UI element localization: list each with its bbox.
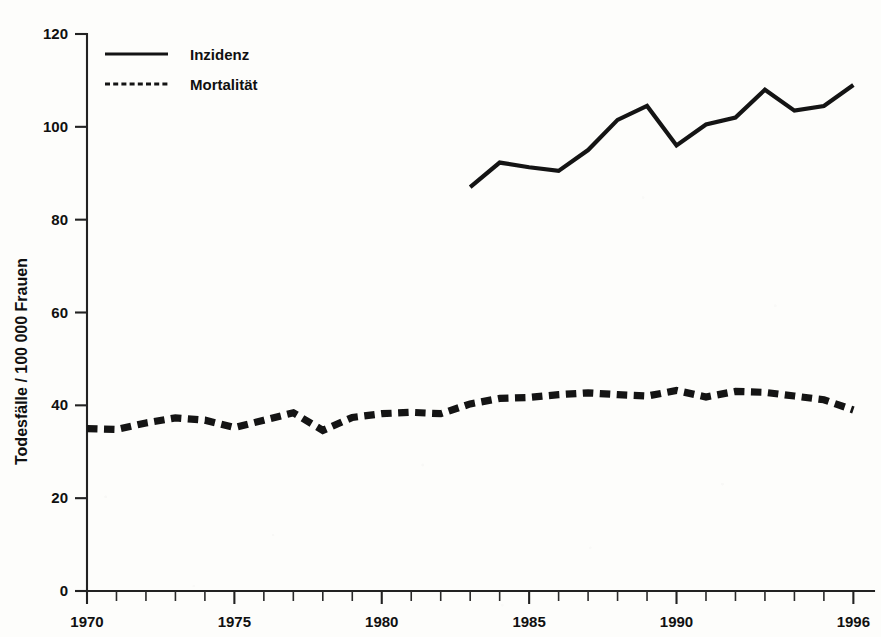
y-axis-title: Todesfälle / 100 000 Frauen [13,258,30,465]
series-line-mortalit-t [87,390,853,430]
line-chart: 020406080100120 197019751980198519901996… [0,0,881,637]
x-axis-minor-ticks [116,591,823,601]
y-tick-label: 0 [60,582,68,599]
y-tick-label: 20 [51,489,68,506]
y-tick-label: 80 [51,211,68,228]
chart-page: 020406080100120 197019751980198519901996… [0,0,881,637]
chart-legend: Inzidenz Mortalität [105,46,258,93]
x-tick-label: 1985 [512,613,545,630]
x-tick-label: 1975 [218,613,251,630]
legend-label-inzidenz: Inzidenz [190,46,249,63]
x-tick-label: 1996 [837,613,870,630]
y-tick-label: 120 [43,25,68,42]
x-tick-label: 1990 [660,613,693,630]
x-tick-label: 1970 [70,613,103,630]
y-tick-label: 60 [51,304,68,321]
y-axis-tick-labels: 020406080100120 [43,25,68,599]
axis-lines [87,34,874,591]
y-tick-label: 40 [51,396,68,413]
x-tick-label: 1980 [365,613,398,630]
y-tick-label: 100 [43,118,68,135]
data-series-layer [87,85,853,430]
legend-label-mortalitaet: Mortalität [190,76,258,93]
y-axis-ticks [75,34,87,591]
series-line-inzidenz [470,85,853,187]
x-axis-tick-labels: 197019751980198519901996 [70,613,870,630]
